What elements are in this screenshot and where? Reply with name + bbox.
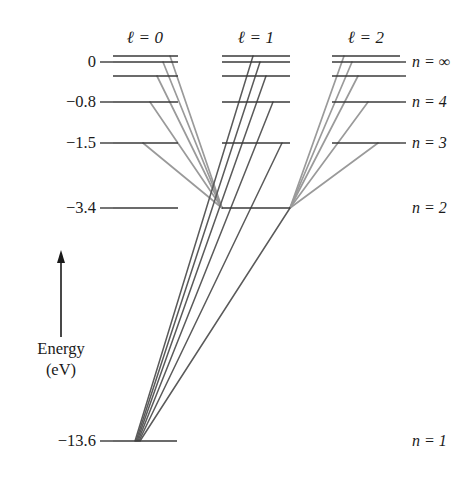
n-level-label: n = ∞ — [412, 54, 450, 70]
transition-line — [137, 76, 266, 441]
energy-tick-label: −0.8 — [20, 94, 96, 111]
n-level-label: n = 3 — [412, 135, 447, 151]
n-level-label: n = 4 — [412, 94, 447, 110]
transition-line — [170, 56, 222, 208]
transition-line — [140, 208, 290, 441]
transition-line — [135, 56, 253, 441]
energy-axis-arrow — [57, 250, 65, 337]
energy-tick-label: −1.5 — [20, 135, 96, 152]
transition-line — [139, 143, 282, 441]
diagram-canvas — [0, 0, 472, 481]
column-header-l1: ℓ = 1 — [216, 29, 296, 46]
n-level-label: n = 1 — [412, 433, 447, 449]
transition-line — [136, 62, 260, 441]
energy-level-diagram: ℓ = 0ℓ = 1ℓ = 2 0−0.8−1.5−3.4−13.6 n = ∞… — [0, 0, 472, 481]
energy-tick-label: −13.6 — [20, 433, 96, 450]
column-header-l0: ℓ = 0 — [105, 29, 185, 46]
transition-line — [290, 56, 344, 208]
transitions-layer — [135, 56, 378, 441]
transition-line — [138, 102, 273, 441]
column-header-l2: ℓ = 2 — [326, 29, 406, 46]
n-level-label: n = 2 — [412, 200, 447, 216]
transition-line — [290, 76, 358, 208]
energy-axis-title-line1: Energy — [20, 341, 102, 358]
energy-axis-title-line2: (eV) — [20, 362, 102, 379]
energy-tick-label: 0 — [20, 54, 96, 71]
energy-tick-label: −3.4 — [20, 200, 96, 217]
